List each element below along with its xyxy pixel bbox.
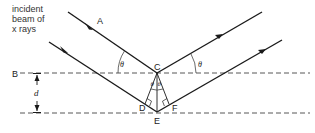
label-e: E (154, 116, 160, 126)
diagram-canvas: A B C D E F θ θ θ θ d (0, 0, 315, 133)
perpendicular-cf (157, 73, 169, 104)
label-d: D (139, 103, 146, 113)
angle-arc-reflected (191, 54, 196, 74)
label-a: A (97, 16, 103, 26)
upper-reflected-ray (157, 12, 262, 73)
label-c: C (154, 62, 161, 72)
caption-line-3: x rays (12, 24, 45, 34)
incident-beam-caption: incident beam of x rays (12, 4, 45, 34)
label-f: F (172, 103, 178, 113)
caption-line-1: incident (12, 4, 45, 14)
spacing-label-d: d (34, 88, 39, 98)
right-angle-mark-f (163, 99, 168, 107)
upper-incident-ray (68, 12, 157, 73)
bragg-diagram: incident beam of x rays (0, 0, 315, 133)
theta-label-left: θ (151, 80, 155, 88)
theta-label-incident: θ (120, 60, 124, 69)
label-b: B (12, 69, 18, 79)
caption-line-2: beam of (12, 14, 45, 24)
right-angle-mark-d (147, 99, 152, 107)
perpendicular-cd (145, 73, 157, 104)
theta-label-reflected: θ (198, 60, 202, 69)
theta-label-right: θ (158, 80, 162, 88)
